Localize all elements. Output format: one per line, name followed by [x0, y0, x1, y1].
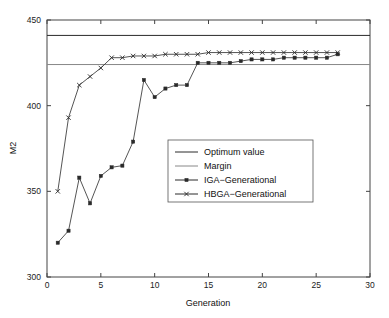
data-point-marker [261, 58, 264, 61]
data-point-marker [282, 56, 285, 59]
legend-label: HBGA−Generational [204, 189, 286, 199]
x-tick-label: 20 [258, 280, 268, 290]
data-point-marker [132, 140, 135, 143]
data-point-marker [228, 61, 231, 64]
y-tick-label: 400 [27, 101, 41, 111]
data-point-marker [78, 176, 81, 179]
data-point-marker [218, 61, 221, 64]
chart-figure: 051015202530300350400450 Optimum valueMa… [0, 0, 389, 318]
data-point-marker [110, 166, 113, 169]
x-tick-label: 25 [311, 280, 321, 290]
y-tick-label: 350 [27, 186, 41, 196]
data-point-marker [99, 174, 102, 177]
data-point-marker [185, 178, 188, 181]
y-axis-label: M2 [8, 142, 18, 155]
y-tick-label: 450 [27, 15, 41, 25]
data-point-marker [293, 56, 296, 59]
legend-label: IGA−Generational [204, 175, 276, 185]
legend-label: Margin [204, 161, 232, 171]
data-point-marker [175, 84, 178, 87]
x-tick-label: 30 [365, 280, 375, 290]
data-point-marker [239, 60, 242, 63]
data-point-marker [196, 61, 199, 64]
data-point-marker [325, 56, 328, 59]
data-point-marker [304, 56, 307, 59]
data-point-marker [88, 202, 91, 205]
x-axis-label: Generation [186, 298, 231, 308]
chart-legend: Optimum valueMarginIGA−GenerationalHBGA−… [168, 140, 313, 202]
legend-label: Optimum value [204, 147, 265, 157]
data-point-marker [67, 229, 70, 232]
x-tick-label: 10 [150, 280, 160, 290]
data-point-marker [185, 84, 188, 87]
data-point-marker [142, 78, 145, 81]
x-tick-label: 15 [204, 280, 214, 290]
x-tick-label: 5 [98, 280, 103, 290]
data-point-marker [121, 164, 124, 167]
data-point-marker [315, 56, 318, 59]
data-point-marker [250, 58, 253, 61]
data-point-marker [153, 96, 156, 99]
data-point-marker [56, 241, 59, 244]
y-tick-label: 300 [27, 272, 41, 282]
data-point-marker [164, 87, 167, 90]
x-tick-label: 0 [45, 280, 50, 290]
data-point-marker [207, 61, 210, 64]
data-point-marker [272, 58, 275, 61]
